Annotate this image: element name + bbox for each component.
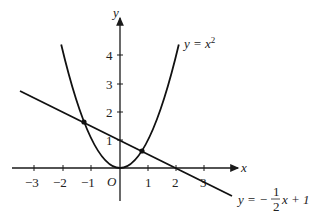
- intersection-point-right: [139, 148, 144, 153]
- x-tick-label: −3: [25, 175, 39, 190]
- y-axis-label: y: [111, 5, 119, 20]
- svg-text:y = −: y = −: [236, 192, 268, 207]
- y-tick-label: 3: [106, 77, 113, 92]
- line-label: y = − 1 2 x + 1: [236, 184, 310, 214]
- x-tick-label: −2: [53, 175, 67, 190]
- line-curve: [20, 91, 232, 196]
- svg-text:x + 1: x + 1: [281, 192, 310, 207]
- graph-canvas: −3 −2 −1 1 2 3 1 2 3 4 O x y y = x2 y = …: [0, 0, 320, 224]
- x-axis-label: x: [240, 160, 247, 175]
- y-tick-label: 2: [106, 105, 113, 120]
- y-tick-label: 4: [106, 48, 113, 63]
- intersection-point-left: [81, 119, 86, 124]
- x-tick-label: 2: [172, 175, 179, 190]
- function-graph-diagram: −3 −2 −1 1 2 3 1 2 3 4 O x y y = x2 y = …: [0, 0, 320, 224]
- x-tick-label: 1: [145, 175, 152, 190]
- origin-label: O: [107, 174, 117, 189]
- parabola-label: y = x2: [182, 35, 215, 51]
- svg-text:1: 1: [273, 184, 280, 199]
- x-tick-label: −1: [81, 175, 95, 190]
- svg-text:2: 2: [273, 199, 280, 214]
